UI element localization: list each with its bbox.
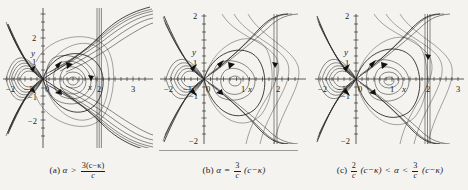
x-axis-label-a: x [87,82,92,92]
y-axis-label-c: y [343,47,348,57]
phase-portrait-b: −2 −1 0 1 2 2 1 −1 −2 y x [156,2,312,150]
caption-c-right-fraction: 3 c [412,162,418,181]
y-axis-label-a: y [30,48,35,58]
ytick-b-2: −1 [189,91,198,101]
phase-portrait-c: −2 −1 0 1 2 3 2 1 −1 −2 y x [312,2,468,150]
xtick-a-2: 0 [45,84,49,94]
caption-c-left-denominator: c [351,172,357,181]
ytick-b-0: 2 [193,11,197,21]
caption-a-fraction: 3(c−κ) c [81,162,106,181]
panel-c: −2 −1 0 1 2 3 2 1 −1 −2 y x (c) 2 c [312,0,468,190]
caption-b-trailing: (c−κ) [244,166,265,175]
caption-c-left-fraction: 2 c [351,162,357,181]
caption-a-denominator: c [90,172,96,181]
caption-b-denominator: c [235,172,241,181]
homoclinic-loop-c [356,49,420,117]
xtick-c-5: 3 [456,84,460,94]
ytick-c-0: 2 [345,11,349,21]
caption-b-relation: = [224,166,231,175]
figure-root: −2 −1 0 2 3 2 1 −1 −2 y x (a) α > 3(c−κ) [0,0,468,190]
xtick-c-2: 0 [358,84,362,94]
x-axis-label-c: x [401,84,406,94]
xtick-b-4: 2 [276,84,280,94]
homoclinic-loop-a [43,54,103,113]
panel-a: −2 −1 0 2 3 2 1 −1 −2 y x (a) α > 3(c−κ) [0,0,156,190]
xtick-c-3: 1 [390,84,394,94]
ytick-c-1: 1 [345,58,349,68]
caption-a: (a) α > 3(c−κ) c [0,152,156,190]
caption-b-fraction: 3 c [234,162,240,181]
xtick-a-4: 3 [131,84,135,94]
xtick-b-0: −2 [164,84,173,94]
xtick-c-0: −2 [318,84,327,94]
y-axis-label-b: y [191,47,196,57]
caption-c-right-numerator: 3 [412,162,418,172]
x-ticks-b [165,77,295,82]
plot-a: −2 −1 0 2 3 2 1 −1 −2 y x [0,2,156,150]
caption-b-numerator: 3 [234,162,240,172]
upper-right-bundle-b [204,14,298,79]
caption-c-middle: α [394,166,399,175]
plot-b: −2 −1 0 1 2 2 1 −1 −2 y x [156,2,312,150]
xtick-b-3: 1 [241,84,245,94]
panel-b: −2 −1 0 1 2 2 1 −1 −2 y x (b) α = 3 c [156,0,312,190]
xtick-a-3: 2 [97,84,101,94]
ytick-a-2: −1 [28,92,37,102]
xtick-c-4: 2 [426,84,430,94]
xtick-b-2: 0 [206,84,210,94]
caption-a-numerator: 3(c−κ) [81,162,106,172]
caption-c-relation-right: < [401,166,408,175]
caption-c-tag: (c) [337,166,348,175]
caption-c-relation-left: < [384,166,391,175]
caption-c-left-trailing: (c−κ) [360,166,381,175]
caption-a-lhs: α [63,166,68,175]
caption-a-tag: (a) [50,166,61,175]
caption-b-tag: (b) [203,166,214,175]
panel-b-baseline-rule [159,150,298,151]
direction-arrows-a [30,61,94,95]
caption-c-right-trailing: (c−κ) [422,166,443,175]
plot-c: −2 −1 0 1 2 3 2 1 −1 −2 y x [312,2,468,150]
caption-c: (c) 2 c (c−κ) < α < 3 c (c−κ) [312,152,468,190]
ytick-c-3: −2 [341,136,350,146]
ytick-b-3: −2 [189,136,198,146]
ytick-c-2: −1 [341,91,350,101]
caption-b: (b) α = 3 c (c−κ) [156,152,312,190]
caption-b-lhs: α [216,166,221,175]
caption-a-relation: > [70,166,77,175]
xtick-a-0: −2 [6,84,15,94]
ytick-a-0: 2 [32,33,36,43]
ytick-a-1: 1 [32,57,36,67]
x-axis-label-b: x [247,84,252,94]
homoclinic-loop-b [204,50,265,116]
ytick-a-3: −2 [28,116,37,126]
upper-right-bundle-a [43,7,153,79]
caption-c-right-denominator: c [413,172,419,181]
ytick-b-1: 1 [193,58,197,68]
phase-portrait-a: −2 −1 0 2 3 2 1 −1 −2 y x [0,2,156,150]
caption-c-left-numerator: 2 [351,162,357,172]
